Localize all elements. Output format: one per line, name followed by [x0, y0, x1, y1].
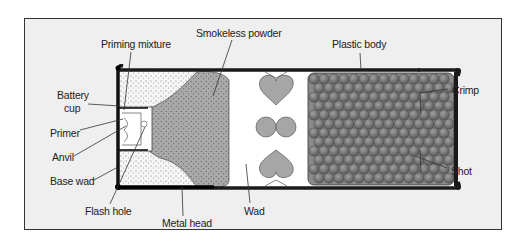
wad — [256, 75, 296, 177]
label-shot: Shot — [451, 165, 472, 177]
label-base-wad: Base wad — [50, 175, 95, 187]
label-priming-mixture: Priming mixture — [101, 38, 171, 50]
label-battery-cup-line1: Battery — [57, 89, 89, 101]
label-smokeless-powder: Smokeless powder — [196, 27, 282, 39]
flash-hole — [141, 121, 147, 127]
label-crimp: Crimp — [452, 84, 479, 96]
shot-pellets — [309, 74, 454, 183]
label-primer: Primer — [50, 127, 80, 139]
label-wad: Wad — [244, 205, 265, 217]
label-anvil: Anvil — [52, 151, 74, 163]
label-plastic-body: Plastic body — [332, 38, 386, 50]
label-flash-hole: Flash hole — [85, 205, 131, 217]
battery-cup — [118, 107, 152, 151]
label-battery-cup-line2: cup — [64, 102, 80, 114]
label-metal-head: Metal head — [162, 217, 212, 229]
